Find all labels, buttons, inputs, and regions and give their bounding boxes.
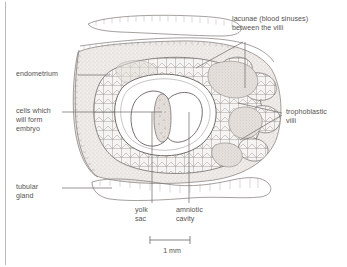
label-cells-embryo: cells which will form embryo <box>16 107 64 135</box>
embryonic-disc <box>154 94 171 142</box>
figure-canvas: lacunae (blood sinuses) between the vill… <box>0 0 347 267</box>
label-lacunae: lacunae (blood sinuses) between the vill… <box>232 15 344 33</box>
label-tubular-gland: tubular gland <box>16 183 60 201</box>
scale-bar-label: 1 mm <box>150 247 194 255</box>
label-amniotic-cavity: amniotic cavity <box>176 206 220 224</box>
uterine-epithelium-fold <box>88 15 241 36</box>
label-yolk-sac: yolk sac <box>135 206 169 224</box>
label-endometrium: endometrium <box>16 70 78 79</box>
scale-bar <box>150 236 190 244</box>
label-trophoblastic-villi: trophoblastic villi <box>286 108 344 126</box>
